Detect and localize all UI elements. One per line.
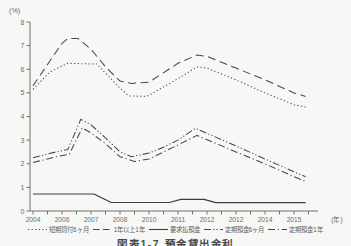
x-tick-label: 2007 <box>84 216 99 223</box>
x-tick-label: 2012 <box>200 216 215 223</box>
x-tick-label: 2004 <box>26 216 41 223</box>
legend-line-marker <box>149 226 168 233</box>
legend-item: 短期貸付6ヶ月 <box>28 225 89 234</box>
x-tick-label: 2014 <box>258 216 273 223</box>
legend-line-marker <box>204 226 223 233</box>
series-line <box>33 39 306 97</box>
series-line <box>33 119 306 176</box>
legend-label: 定期預金1年 <box>289 225 323 234</box>
y-tick-label: 7 <box>21 42 25 49</box>
y-tick-label: 1 <box>21 184 25 191</box>
legend-label: 要求払預金 <box>170 225 200 234</box>
x-tick-label: 2015 <box>287 216 302 223</box>
figure-canvas: 012345678(%)2004200620072008201020112012… <box>0 0 351 246</box>
series-line <box>33 63 306 107</box>
y-unit-label: (%) <box>9 6 20 15</box>
figure-caption: 図表1-7 預金貸出金利 <box>0 236 351 246</box>
legend-item: 1年以上1年 <box>93 225 145 234</box>
series-line <box>33 194 306 203</box>
legend-item: 要求払預金 <box>149 225 200 234</box>
legend-item: 定期預金1年 <box>268 225 323 234</box>
legend-line-marker <box>28 226 47 233</box>
x-tick-label: 2010 <box>142 216 157 223</box>
y-tick-label: 3 <box>21 137 25 144</box>
x-tick-label: 2006 <box>55 216 70 223</box>
chart-legend: 短期貸付6ヶ月1年以上1年要求払預金定期預金6ヶ月定期預金1年 <box>0 223 351 236</box>
legend-line-marker <box>93 226 112 233</box>
x-tick-label: 2008 <box>113 216 128 223</box>
y-tick-label: 0 <box>21 208 25 215</box>
legend-label: 短期貸付6ヶ月 <box>49 225 89 234</box>
x-tick-label: 2012 <box>229 216 244 223</box>
y-tick-label: 6 <box>21 66 25 73</box>
y-tick-label: 4 <box>21 113 25 120</box>
axes <box>30 22 318 211</box>
legend-item: 定期預金6ヶ月 <box>204 225 265 234</box>
legend-line-marker <box>268 226 287 233</box>
y-tick-label: 5 <box>21 89 25 96</box>
legend-label: 1年以上1年 <box>114 225 145 234</box>
y-tick-label: 8 <box>21 19 25 26</box>
x-tick-label: 2011 <box>171 216 186 223</box>
y-tick-label: 2 <box>21 160 25 167</box>
rate-line-chart: 012345678(%)2004200620072008201020112012… <box>0 0 351 246</box>
legend-label: 定期預金6ヶ月 <box>225 225 265 234</box>
